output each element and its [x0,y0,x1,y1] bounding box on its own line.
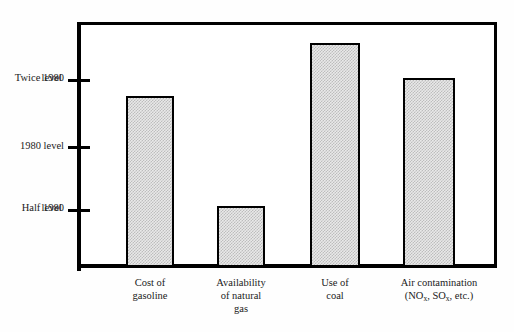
y-axis-tick-twice-1980 [68,79,90,82]
x-axis-label-air-contamination-line1: Air contamination [379,276,499,289]
air-contamination-formula-sub2: x [446,294,450,303]
y-axis-label-half-1980: Half 1980 level [0,202,64,215]
x-axis-label-use-of-coal-line1: Use of [295,276,375,289]
bar-chart: Twice 1980 level 1980 level Half 1980 le… [0,0,514,332]
y-axis-label-twice-1980-line2: level [0,72,62,85]
bar-availability-of-natural-gas [217,206,265,267]
x-axis-label-cost-of-gasoline-line2: gasoline [110,289,190,302]
bar-cost-of-gasoline [126,96,174,267]
bar-air-contamination [403,78,455,267]
air-contamination-formula-pre: (NO [405,290,424,301]
x-axis-label-availability-of-natural-gas-line3: gas [201,302,281,315]
x-axis-label-availability-of-natural-gas: Availability of natural gas [201,276,281,315]
x-axis-label-cost-of-gasoline: Cost of gasoline [110,276,190,302]
x-axis-label-air-contamination-line2: (NOx, SOx, etc.) [379,289,499,303]
x-axis-label-air-contamination: Air contamination (NOx, SOx, etc.) [379,276,499,303]
y-axis-tick-1980 [68,146,90,149]
x-axis-label-availability-of-natural-gas-line1: Availability [201,276,281,289]
x-axis-label-availability-of-natural-gas-line2: of natural [201,289,281,302]
air-contamination-formula-sub1: x [423,294,427,303]
x-axis-label-cost-of-gasoline-line1: Cost of [110,276,190,289]
y-axis-label-half-1980-line2: level [0,202,62,215]
air-contamination-formula-mid: , SO [427,290,446,301]
y-axis-label-twice-1980: Twice 1980 level [0,72,64,85]
y-axis-label-1980-line1: 1980 level [2,140,64,153]
air-contamination-formula-post: , etc.) [450,290,474,301]
bar-use-of-coal [310,43,360,267]
x-axis-label-use-of-coal: Use of coal [295,276,375,302]
x-axis-label-use-of-coal-line2: coal [295,289,375,302]
y-axis-tick-half-1980 [68,209,90,212]
